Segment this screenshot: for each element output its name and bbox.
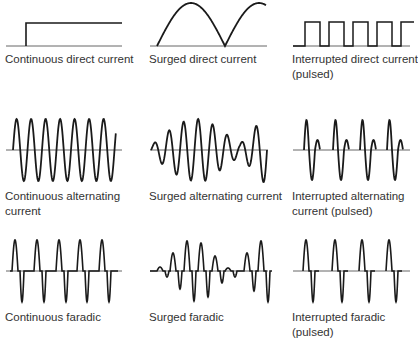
label-line: Interrupted alternating: [292, 189, 405, 204]
label-interrupted-faradic: Interrupted faradic (pulsed): [292, 310, 385, 340]
surged-dc-curve: [157, 3, 266, 46]
surged-ac-curve: [151, 119, 267, 182]
label-line: Surged direct current: [149, 52, 256, 67]
interrupted-ac-waveform: [293, 120, 410, 180]
label-line: Continuous direct current: [5, 52, 133, 67]
label-line: current: [5, 204, 120, 219]
label-continuous-faradic: Continuous faradic: [5, 310, 101, 325]
label-line: Continuous faradic: [5, 310, 101, 325]
interrupted-dc-waveform: [293, 22, 414, 46]
label-line: Continuous alternating: [5, 189, 120, 204]
label-surged-faradic: Surged faradic: [149, 310, 224, 325]
label-continuous-dc: Continuous direct current: [5, 52, 133, 67]
continuous-ac-waveform: [6, 119, 122, 181]
label-line: Surged faradic: [149, 310, 224, 325]
label-line: (pulsed): [292, 67, 418, 82]
label-line: (pulsed): [292, 325, 385, 340]
label-line: Interrupted direct current: [292, 52, 418, 67]
continuous-faradic-waveform: [6, 240, 122, 302]
pulsed-dc-line: [293, 22, 414, 46]
label-continuous-ac: Continuous alternating current: [5, 189, 120, 219]
surged-faradic-waveform: [150, 241, 272, 302]
label-surged-ac: Surged alternating current: [149, 189, 282, 204]
label-line: current (pulsed): [292, 204, 405, 219]
label-interrupted-ac: Interrupted alternating current (pulsed): [292, 189, 405, 219]
label-interrupted-dc: Interrupted direct current (pulsed): [292, 52, 418, 82]
surged-ac-waveform: [150, 119, 268, 182]
continuous-dc-waveform: [6, 23, 122, 46]
label-line: Interrupted faradic: [292, 310, 385, 325]
dc-step-line: [26, 23, 122, 46]
label-surged-dc: Surged direct current: [149, 52, 256, 67]
label-line: Surged alternating current: [149, 189, 282, 204]
interrupted-faradic-waveform: [293, 240, 410, 302]
surged-dc-waveform: [150, 3, 267, 46]
